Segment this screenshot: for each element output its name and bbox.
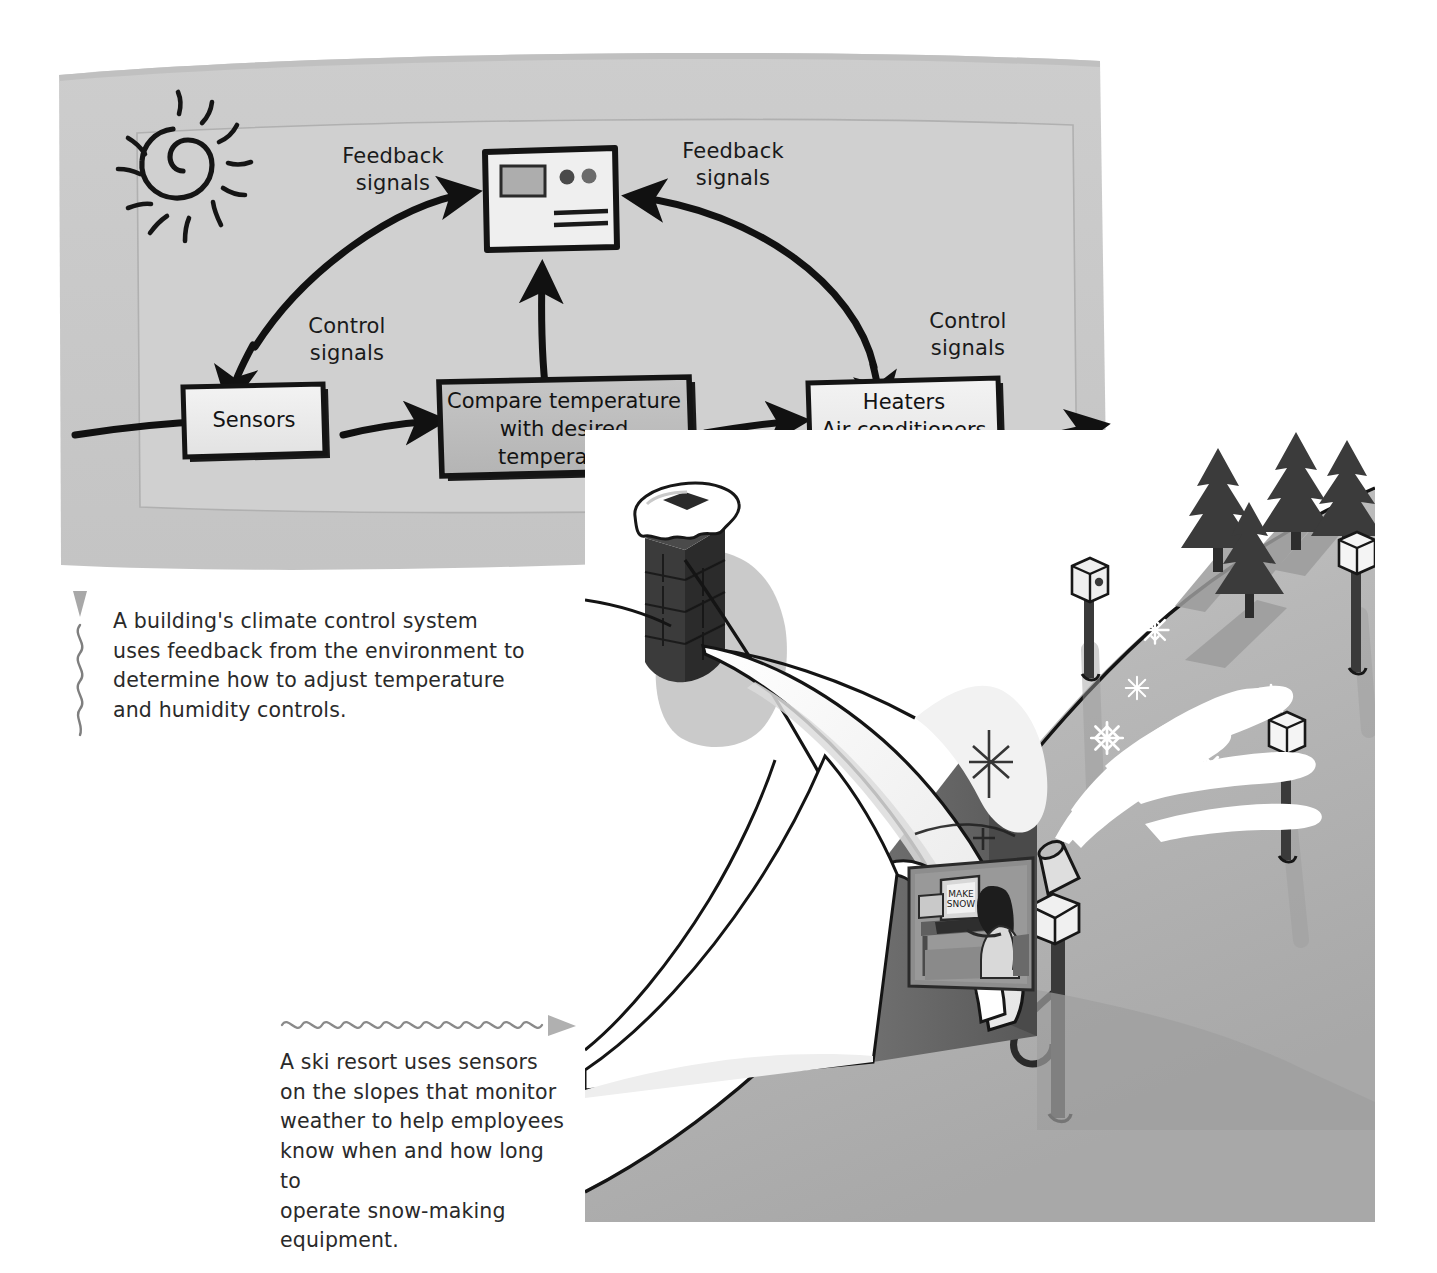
box-sensors-label: Sensors [183,407,325,435]
caption-ski-line2: on the slopes that monitor [280,1078,570,1108]
compare-thermostat-double-arrow [541,273,545,385]
monitor-text-line2: SNOW [947,899,976,909]
caption-climate-line3: determine how to adjust temperature [113,666,533,696]
thermostat-icon [485,148,617,250]
box-compare-line1: Compare temperature [439,388,689,416]
monitor-text-line1: MAKE [948,889,974,899]
label-control-left: Control signals [282,313,412,367]
label-feedback-right: Feedback signals [663,138,803,192]
caption-climate-line2: uses feedback from the environment to [113,637,533,667]
lodge-window: MAKE SNOW [909,858,1033,990]
ski-art-canvas: MAKE SNOW [585,430,1375,1222]
caption-ski-line6: equipment. [280,1226,570,1256]
wavy-line-up-arrow-marker [62,585,108,745]
label-control-right: Control signals [903,308,1033,362]
caption-ski-line3: weather to help employees [280,1107,570,1137]
caption-climate-line1: A building's climate control system [113,607,533,637]
caption-ski-line5: operate snow-making [280,1197,570,1227]
caption-ski-resort: A ski resort uses sensors on the slopes … [280,1048,570,1256]
caption-climate-line4: and humidity controls. [113,696,533,726]
box-sensors-label-wrap: Sensors [183,407,325,435]
caption-ski-line1: A ski resort uses sensors [280,1048,570,1078]
page-root: Feedback signals Feedback signals Contro… [0,0,1437,1273]
ski-resort-illustration: MAKE SNOW [585,430,1375,1222]
wavy-line-right-arrow-marker [280,1005,580,1045]
caption-ski-line4: know when and how long to [280,1137,570,1196]
box-effectors-line1: Heaters [808,389,1000,417]
computer-monitor: MAKE SNOW [941,876,979,920]
caption-climate-control: A building's climate control system uses… [113,607,533,726]
label-feedback-left: Feedback signals [323,143,463,197]
